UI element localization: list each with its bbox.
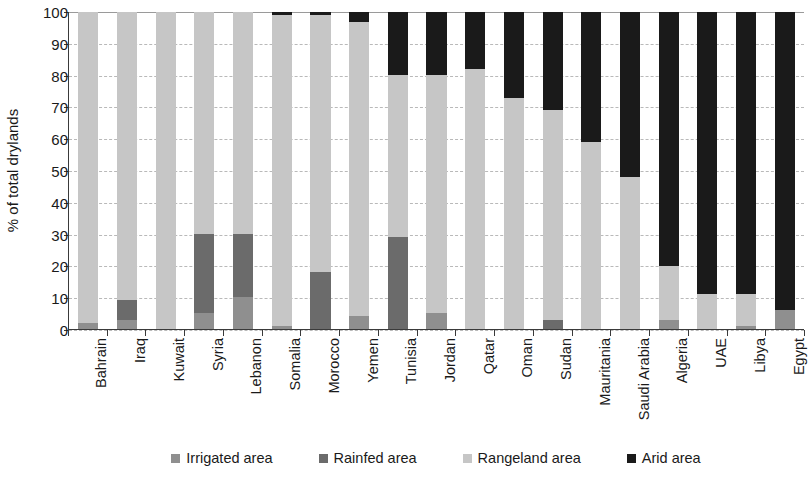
y-axis-tick-label: 10 bbox=[28, 290, 68, 307]
legend-item[interactable]: Rainfed area bbox=[319, 450, 417, 466]
bar-segment bbox=[233, 297, 253, 329]
bar-slot bbox=[727, 12, 766, 329]
legend-swatch-icon bbox=[627, 454, 636, 463]
stacked-bar[interactable] bbox=[156, 12, 176, 329]
bar-slot bbox=[224, 12, 263, 329]
stacked-bar[interactable] bbox=[620, 12, 640, 329]
bar-segment bbox=[388, 12, 408, 75]
legend-item[interactable]: Irrigated area bbox=[171, 450, 272, 466]
x-axis-label-slot: Libya bbox=[726, 336, 765, 434]
x-axis-label-slot: Bahrain bbox=[68, 336, 107, 434]
bar-segment bbox=[272, 15, 292, 326]
stacked-bar[interactable] bbox=[504, 12, 524, 329]
bar-slot bbox=[572, 12, 611, 329]
bar-segment bbox=[736, 294, 756, 326]
y-axis-tick-label: 40 bbox=[28, 194, 68, 211]
stacked-bar[interactable] bbox=[388, 12, 408, 329]
stacked-bar[interactable] bbox=[310, 12, 330, 329]
bar-segment bbox=[194, 12, 214, 234]
bar-segment bbox=[504, 98, 524, 329]
stacked-bar[interactable] bbox=[349, 12, 369, 329]
x-axis-label-slot: Egypt bbox=[765, 336, 804, 434]
x-axis-label-slot: Kuwait bbox=[145, 336, 184, 434]
bar-slot bbox=[649, 12, 688, 329]
bar-segment bbox=[388, 237, 408, 329]
stacked-bar[interactable] bbox=[426, 12, 446, 329]
bar-segment bbox=[659, 320, 679, 330]
legend-label: Irrigated area bbox=[186, 450, 272, 466]
bar-segment bbox=[156, 12, 176, 329]
stacked-bar[interactable] bbox=[117, 12, 137, 329]
x-axis-label-slot: Syria bbox=[184, 336, 223, 434]
bar-slot bbox=[417, 12, 456, 329]
bar-segment bbox=[349, 22, 369, 317]
bar-segment bbox=[194, 313, 214, 329]
stacked-bar[interactable] bbox=[775, 12, 795, 329]
bar-segment bbox=[736, 12, 756, 294]
stacked-bar[interactable] bbox=[233, 12, 253, 329]
bar-slot bbox=[495, 12, 534, 329]
x-axis-label-slot: Saudi Arabia bbox=[610, 336, 649, 434]
bar-segment bbox=[543, 320, 563, 330]
bar-slot bbox=[688, 12, 727, 329]
legend-item[interactable]: Rangeland area bbox=[463, 450, 581, 466]
legend-label: Rainfed area bbox=[334, 450, 417, 466]
bar-slot bbox=[611, 12, 650, 329]
legend-swatch-icon bbox=[171, 454, 180, 463]
legend-label: Rangeland area bbox=[478, 450, 581, 466]
stacked-bar[interactable] bbox=[78, 12, 98, 329]
bar-segment bbox=[659, 12, 679, 266]
x-axis-label-slot: Somalia bbox=[262, 336, 301, 434]
y-axis-tick-label: 30 bbox=[28, 226, 68, 243]
bar-slot bbox=[301, 12, 340, 329]
stacked-bar[interactable] bbox=[659, 12, 679, 329]
stacked-bar[interactable] bbox=[581, 12, 601, 329]
y-axis-tick-label: 0 bbox=[28, 322, 68, 339]
bar-segment bbox=[697, 12, 717, 294]
bar-segment bbox=[349, 12, 369, 22]
bar-segment bbox=[117, 12, 137, 300]
stacked-bar[interactable] bbox=[272, 12, 292, 329]
legend-label: Arid area bbox=[642, 450, 701, 466]
bar-segment bbox=[465, 69, 485, 329]
bar-segment bbox=[426, 75, 446, 313]
bar-segment bbox=[504, 12, 524, 98]
bar-segment bbox=[581, 12, 601, 142]
stacked-bar[interactable] bbox=[736, 12, 756, 329]
bar-segment bbox=[78, 12, 98, 323]
chart-legend: Irrigated areaRainfed areaRangeland area… bbox=[68, 446, 804, 470]
x-axis-label-slot: Algeria bbox=[649, 336, 688, 434]
y-axis-tick-label: 60 bbox=[28, 131, 68, 148]
x-axis-label-slot: Oman bbox=[494, 336, 533, 434]
stacked-bar[interactable] bbox=[543, 12, 563, 329]
stacked-bar[interactable] bbox=[465, 12, 485, 329]
bar-slot bbox=[185, 12, 224, 329]
legend-item[interactable]: Arid area bbox=[627, 450, 701, 466]
stacked-bar[interactable] bbox=[697, 12, 717, 329]
x-axis-label-slot: Morocco bbox=[300, 336, 339, 434]
y-axis-tick-label: 70 bbox=[28, 99, 68, 116]
bar-segment bbox=[775, 12, 795, 310]
bar-segment bbox=[349, 316, 369, 329]
bar-segment bbox=[736, 326, 756, 329]
bar-segment bbox=[233, 12, 253, 234]
bar-segment bbox=[620, 177, 640, 329]
bar-segment bbox=[78, 323, 98, 329]
bar-segment bbox=[620, 12, 640, 177]
x-axis-category-label: Egypt bbox=[791, 338, 807, 375]
bar-segment bbox=[426, 12, 446, 75]
bar-slot bbox=[108, 12, 147, 329]
legend-swatch-icon bbox=[463, 454, 472, 463]
bar-segment bbox=[117, 300, 137, 319]
bar-slot bbox=[533, 12, 572, 329]
bar-slot bbox=[379, 12, 418, 329]
x-axis-label-slot: Iraq bbox=[107, 336, 146, 434]
bar-segment bbox=[388, 75, 408, 237]
stacked-bar[interactable] bbox=[194, 12, 214, 329]
bar-slot bbox=[765, 12, 804, 329]
bar-segment bbox=[272, 326, 292, 329]
y-axis-tick-label: 20 bbox=[28, 258, 68, 275]
bar-segment bbox=[310, 15, 330, 272]
x-axis-label-slot: Mauritania bbox=[572, 336, 611, 434]
y-axis-title: % of total drylands bbox=[0, 0, 26, 340]
